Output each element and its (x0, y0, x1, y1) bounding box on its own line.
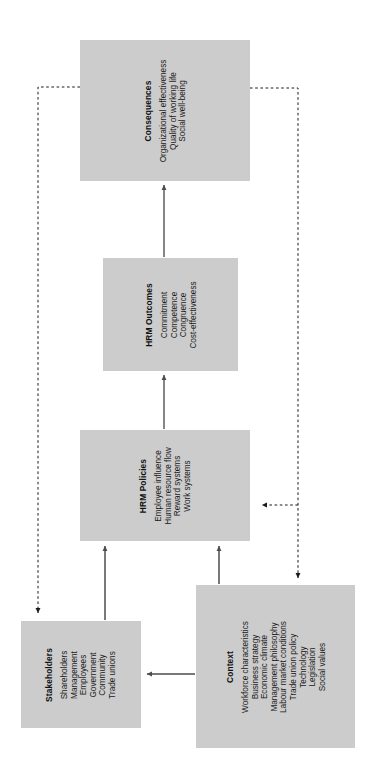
box-consequences-title: Consequences (143, 59, 154, 162)
box-context-item: Business strategy (250, 621, 260, 713)
box-hrm-policies-title: HRM Policies (138, 447, 149, 524)
box-hrm-policies[interactable]: HRM Policies Employee influence Human re… (80, 430, 250, 541)
box-consequences-item: Social well-being (178, 59, 188, 162)
box-stakeholders-item: Trade unions (108, 648, 118, 702)
box-stakeholders-item: Shareholders (60, 648, 70, 702)
box-stakeholders-item: Government (89, 648, 99, 702)
box-context-title: Context (224, 621, 235, 713)
box-hrm-outcomes[interactable]: HRM Outcomes Commitment Competence Congr… (103, 258, 238, 371)
box-context-item: Technology (298, 621, 308, 713)
box-hrm-outcomes-title: HRM Outcomes (143, 281, 154, 348)
box-stakeholders-title: Stakeholders (44, 648, 55, 702)
connector-consequences-to-context (250, 88, 298, 578)
box-context-item: Management philosophy (269, 621, 279, 713)
box-hrm-outcomes-item: Congruence (179, 281, 189, 348)
box-stakeholders-item: Community (99, 648, 109, 702)
box-hrm-policies-item: Human resource flow (163, 447, 173, 524)
connector-consequences-to-stakeholders (38, 87, 80, 613)
box-consequences-item: Quality of working life (168, 59, 178, 162)
box-context-item: Workforce characteristics (240, 621, 250, 713)
box-hrm-policies-item: Employee influence (154, 447, 164, 524)
box-hrm-policies-item: Reward systems (173, 447, 183, 524)
box-consequences[interactable]: Consequences Organizational effectivenes… (80, 40, 250, 181)
box-context-item: Social values (317, 621, 327, 713)
box-stakeholders-item: Management (70, 648, 80, 702)
box-context-item: Economic climate (260, 621, 270, 713)
box-hrm-outcomes-item: Competence (169, 281, 179, 348)
box-stakeholders-item: Employees (79, 648, 89, 702)
box-hrm-outcomes-item: Cost-effectiveness (188, 281, 198, 348)
box-hrm-policies-item: Work systems (183, 447, 193, 524)
box-stakeholders[interactable]: Stakeholders Shareholders Management Emp… (21, 621, 141, 728)
diagram-canvas: Consequences Organizational effectivenes… (0, 0, 372, 777)
box-context-item: Legislation (307, 621, 317, 713)
box-hrm-outcomes-item: Commitment (159, 281, 169, 348)
box-consequences-item: Organizational effectiveness (159, 59, 169, 162)
box-context-item: Labour market conditions (279, 621, 289, 713)
box-context-item: Trade union policy (288, 621, 298, 713)
box-context[interactable]: Context Workforce characteristics Busine… (196, 585, 355, 748)
